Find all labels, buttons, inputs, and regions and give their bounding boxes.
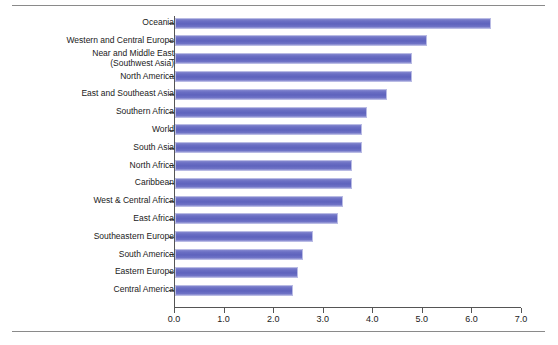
x-tick-label: 3.0 (303, 314, 343, 324)
x-tick-label: 0.0 (154, 314, 194, 324)
x-tick-mark (372, 308, 373, 313)
x-tick-mark (174, 308, 175, 313)
x-tick-label: 4.0 (352, 314, 392, 324)
x-tick-label: 2.0 (253, 314, 293, 324)
x-tick-label: 1.0 (204, 314, 244, 324)
x-tick-label: 7.0 (501, 314, 541, 324)
bottom-divider-rule (12, 331, 545, 332)
x-tick-label: 5.0 (402, 314, 442, 324)
x-tick-mark (471, 308, 472, 313)
x-tick-mark (323, 308, 324, 313)
figure: OceaniaWestern and Central EuropeNear an… (0, 0, 558, 345)
x-tick-label: 6.0 (451, 314, 491, 324)
x-tick-mark (273, 308, 274, 313)
x-tick-mark (224, 308, 225, 313)
bar-chart-plot-area: OceaniaWestern and Central EuropeNear an… (0, 0, 558, 330)
x-tick-mark (422, 308, 423, 313)
x-axis-ticks: 0.01.02.03.04.05.06.07.0 (0, 0, 558, 330)
x-tick-mark (521, 308, 522, 313)
